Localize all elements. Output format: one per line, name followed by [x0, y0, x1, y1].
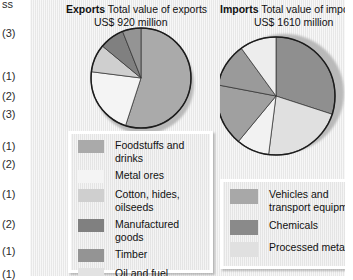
legend-swatch-metal-ores-icon	[78, 170, 104, 183]
legend-swatch-cotton-icon	[78, 189, 104, 202]
legend-item: Foodstuffs and drinks	[71, 139, 210, 164]
legend-swatch-vehicles-icon	[230, 189, 258, 204]
legend-label-chemicals: Chemicals	[269, 219, 318, 232]
exports-pie-chart	[88, 26, 200, 138]
legend-swatch-oil-fuel-icon	[78, 268, 104, 276]
gutter-mark-2: (2)	[2, 90, 15, 102]
exports-keyword: Exports	[66, 3, 105, 15]
imports-pie-chart	[220, 26, 345, 172]
legend-label-processed-metals: Processed metals	[269, 241, 345, 254]
legend-label-vehicles: Vehicles and transport equipment	[269, 188, 345, 213]
legend-swatch-manufactured-icon	[78, 219, 104, 232]
legend-label-metal-ores: Metal ores	[115, 169, 164, 182]
legend-swatch-timber-icon	[78, 249, 104, 262]
gutter-mark-6: (1)	[2, 188, 15, 200]
exports-caption-line1: Total value of exports	[108, 3, 207, 15]
legend-swatch-processed-metals-icon	[230, 242, 258, 257]
imports-pie-svg	[220, 26, 345, 172]
legend-label-foodstuffs: Foodstuffs and drinks	[115, 139, 210, 164]
legend-item: Processed metals	[223, 241, 345, 257]
figure-panel: Exports Total value of exports US$ 920 m…	[30, 0, 345, 276]
gutter-mark-4: (1)	[2, 140, 15, 152]
page-right-margin	[345, 0, 353, 276]
legend-item: Chemicals	[223, 219, 345, 235]
legend-item: Oil and fuel	[71, 267, 210, 276]
gutter-top-label: ss	[2, 0, 13, 10]
legend-item: Timber	[71, 248, 210, 262]
page-margin-gutter: ss (3) (1) (2) (3) (1) (2) (1) (2) (1) (…	[0, 0, 30, 276]
gutter-mark-1: (1)	[2, 70, 15, 82]
legend-label-cotton: Cotton, hides, oilseeds	[115, 188, 210, 213]
exports-pie-svg	[88, 26, 200, 138]
gutter-mark-0: (3)	[2, 27, 15, 39]
legend-label-timber: Timber	[115, 248, 147, 261]
legend-swatch-foodstuffs-icon	[78, 140, 104, 153]
gutter-mark-9: (1)	[2, 268, 15, 280]
exports-legend: Foodstuffs and drinks Metal ores Cotton,…	[68, 131, 213, 273]
legend-item: Cotton, hides, oilseeds	[71, 188, 210, 213]
gutter-mark-8: (1)	[2, 245, 15, 257]
imports-caption-line1: Total value of imports	[261, 3, 345, 15]
legend-label-manufactured: Manufactured goods	[115, 218, 210, 243]
gutter-mark-7: (2)	[2, 218, 15, 230]
imports-legend: Vehicles and transport equipment Chemica…	[220, 179, 345, 269]
legend-item: Metal ores	[71, 169, 210, 183]
legend-label-oil-fuel: Oil and fuel	[115, 267, 168, 276]
gutter-mark-5: (2)	[2, 158, 15, 170]
legend-swatch-chemicals-icon	[230, 220, 258, 235]
legend-item: Manufactured goods	[71, 218, 210, 243]
gutter-mark-3: (3)	[2, 108, 15, 120]
imports-keyword: Imports	[220, 3, 259, 15]
legend-item: Vehicles and transport equipment	[223, 188, 345, 213]
